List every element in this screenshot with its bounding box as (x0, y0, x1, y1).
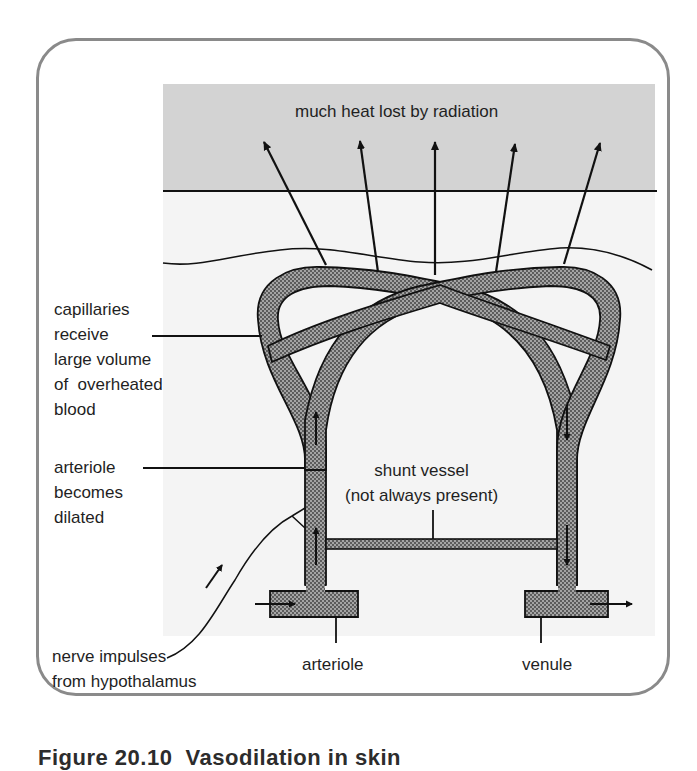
shunt-vessel (326, 539, 557, 549)
figure-caption: Figure 20.10 Vasodilation in skin (38, 745, 401, 771)
arteriole-label: arteriole (302, 652, 363, 677)
shunt-vessel-label: shunt vessel (not always present) (345, 458, 498, 508)
capillaries-label: capillaries receive large volume of over… (54, 297, 163, 422)
nerve-impulses-label: nerve impulses from hypothalamus (52, 644, 197, 694)
arteriole-dilated-label: arteriole becomes dilated (54, 455, 123, 530)
venule-label: venule (522, 652, 572, 677)
heat-loss-label: much heat lost by radiation (295, 99, 498, 124)
